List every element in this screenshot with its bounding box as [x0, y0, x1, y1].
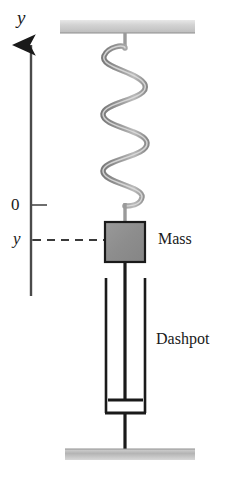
spring-coil: [103, 46, 147, 206]
y-axis-label: y: [17, 8, 25, 27]
mass-label: Mass: [158, 231, 192, 247]
bottom-support: [65, 449, 195, 460]
zero-tick-label: 0: [11, 196, 20, 213]
displacement-tick-label: y: [13, 230, 21, 247]
dashpot-label: Dashpot: [156, 331, 209, 347]
mass-spring-dashpot-diagram: y 0 y Mass Dashpot: [0, 0, 233, 481]
mass-block: [105, 222, 145, 262]
top-support: [60, 20, 195, 33]
diagram-canvas: [0, 0, 233, 481]
